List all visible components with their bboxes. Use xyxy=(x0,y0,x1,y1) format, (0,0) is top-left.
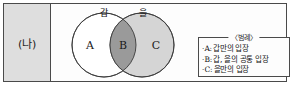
legend-item-desc: 갑만의 입장 xyxy=(213,44,249,55)
venn-label-c: C xyxy=(152,39,160,52)
legend-box: 〈범례〉 · A: 갑만의 입장 · B: 갑, 을의 공통 입장 · C xyxy=(198,37,290,77)
venn-label-b: B xyxy=(119,39,127,52)
venn-label-a: A xyxy=(85,39,95,52)
figure-content-cell: A B C 갑 을 〈범례〉 · A: 갑만의 입장 xyxy=(52,4,286,81)
legend-item: · A: 갑만의 입장 xyxy=(202,44,287,55)
venn-circle-label-right: 을 xyxy=(139,8,147,18)
legend-item-desc: 갑, 을의 공통 입장 xyxy=(213,55,268,66)
legend-item-key: B: xyxy=(204,55,211,66)
legend-item-desc: 을만의 입장 xyxy=(214,65,250,76)
figure-table-frame: (나) xyxy=(3,3,287,82)
row-label-text: (나) xyxy=(18,35,36,51)
venn-svg: A B C 갑 을 xyxy=(52,0,192,84)
figure-root: (나) xyxy=(0,0,294,92)
legend-item-key: C: xyxy=(204,65,212,76)
legend-item-list: · A: 갑만의 입장 · B: 갑, 을의 공통 입장 · C: 을만의 입장 xyxy=(202,44,287,76)
legend-title: 〈범례〉 xyxy=(228,32,259,42)
legend-item: · B: 갑, 을의 공통 입장 xyxy=(202,55,287,66)
legend-item-key: A: xyxy=(204,44,211,55)
venn-diagram: A B C 갑 을 xyxy=(52,0,192,84)
legend-item: · C: 을만의 입장 xyxy=(202,65,287,76)
row-label-cell: (나) xyxy=(4,4,51,81)
